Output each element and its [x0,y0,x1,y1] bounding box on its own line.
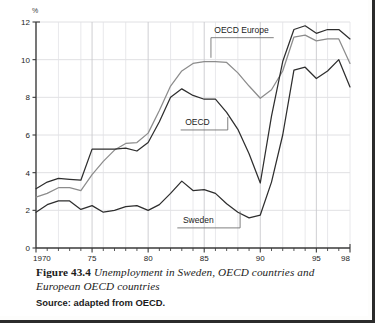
y-axis-tick-label: 4 [26,169,31,178]
figure-inner: 0246810121970758085909598 OECD EuropeOEC… [0,0,368,316]
series-annotation-label: Sweden [183,215,214,225]
figure-caption: Figure 43.4 Unemployment in Sweden, OECD… [36,266,356,293]
y-axis-tick-label: 10 [21,56,30,65]
chart-plot-area: 0246810121970758085909598 OECD EuropeOEC… [0,0,368,265]
y-axis-tick-label: 12 [21,18,30,27]
y-axis-tick-label: 2 [26,206,31,215]
y-axis-tick-label: 8 [26,93,31,102]
x-axis-tick-label: 1970 [33,254,51,263]
x-axis-tick-label: 80 [144,254,153,263]
figure-source: Source: adapted from OECD. [36,297,356,308]
x-axis-tick-label: 90 [256,254,265,263]
figure-caption-block: Figure 43.4 Unemployment in Sweden, OECD… [36,266,356,308]
axis-tick-labels: 0246810121970758085909598 [21,18,350,263]
figure-number: Figure 43.4 [36,266,91,278]
series-annotation-label: OECD Europe [214,25,269,35]
x-axis-tick-label: 95 [312,254,321,263]
x-axis-tick-label: 75 [88,254,97,263]
series-annotation-label: OECD [185,117,210,127]
series-annotations: OECD EuropeOECDSweden [177,25,273,228]
y-axis-tick-label: 0 [26,244,31,253]
x-axis-tick-label: 85 [200,254,209,263]
y-axis-tick-label: 6 [26,131,31,140]
x-axis-tick-label: 98 [341,254,350,263]
y-axis-unit-label: % [32,7,38,14]
unemployment-line-chart: 0246810121970758085909598 OECD EuropeOEC… [0,0,368,265]
figure-container: 0246810121970758085909598 OECD EuropeOEC… [0,0,375,323]
